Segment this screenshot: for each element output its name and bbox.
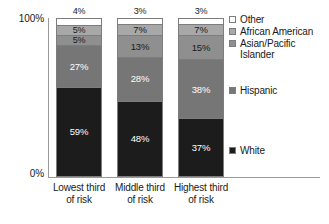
bar-segment-value-label: 5% <box>73 36 86 45</box>
bar-segment-value-label: 5% <box>73 26 86 35</box>
legend-label: White <box>240 145 265 156</box>
bar-segment-value-label: 7% <box>133 25 146 35</box>
bar-segment: 13% <box>117 35 163 56</box>
bar-segment: 59% <box>56 87 102 178</box>
legend-swatch <box>229 87 236 94</box>
bar-segment-value-label: 4% <box>57 7 101 16</box>
bar-segment-value-label: 59% <box>70 127 88 137</box>
legend-item: White <box>229 145 265 156</box>
bar-segment-value-label: 3% <box>179 7 223 16</box>
legend-label: Hispanic <box>240 85 277 96</box>
bar-segment-value-label: 28% <box>131 74 149 84</box>
bar-segment-value-label: 13% <box>131 42 149 52</box>
bar-segment-value-label: 37% <box>192 143 210 153</box>
y-axis-tick-0: 0% <box>4 168 44 179</box>
bar-segment: 5% <box>56 35 102 45</box>
legend-swatch <box>229 28 236 35</box>
bar-column: 3%7%15%38%37% <box>178 18 224 177</box>
bar-segment: 7% <box>117 24 163 36</box>
legend-label: Other <box>240 14 264 25</box>
x-axis-line <box>48 177 320 178</box>
legend-swatch <box>229 40 236 47</box>
legend-label: Asian/Pacific Islander <box>240 38 295 60</box>
plot-area: 4%5%5%27%59% 3%7%13%28%48% 3%7%15%38%37% <box>49 18 225 177</box>
stacked-bar-chart: 100% 0% 4%5%5%27%59% 3%7%13%28%48% 3%7%1… <box>0 0 329 224</box>
x-axis-category-label: Highest third of risk <box>165 182 237 205</box>
bar-segment: 15% <box>178 35 224 59</box>
bar-segment-value-label: 27% <box>70 62 88 72</box>
bar-segment: 7% <box>178 24 224 36</box>
bar-segment-value-label: 7% <box>194 25 207 35</box>
bar-segment: 28% <box>117 57 163 101</box>
bar-column: 3%7%13%28%48% <box>117 18 163 177</box>
bar-segment: 27% <box>56 45 102 87</box>
bar-segment: 4% <box>56 18 102 25</box>
bar-segment-value-label: 3% <box>118 7 162 16</box>
bar-segment: 48% <box>117 101 163 177</box>
bar-column: 4%5%5%27%59% <box>56 18 102 177</box>
legend-swatch <box>229 147 236 154</box>
legend-item: Hispanic <box>229 85 277 96</box>
bar-segment: 5% <box>56 25 102 35</box>
bar-segment: 38% <box>178 59 224 118</box>
legend-label: African American <box>240 26 313 37</box>
legend-item: Asian/Pacific Islander <box>229 38 295 60</box>
bar-segment: 37% <box>178 118 224 177</box>
legend-swatch <box>229 16 236 23</box>
bar-segment-value-label: 38% <box>192 85 210 95</box>
bar-segment-value-label: 48% <box>131 134 149 144</box>
legend-item: African American <box>229 26 313 37</box>
bar-segment-value-label: 15% <box>192 43 210 53</box>
legend-item: Other <box>229 14 264 25</box>
y-axis-tick-100: 100% <box>4 13 44 24</box>
